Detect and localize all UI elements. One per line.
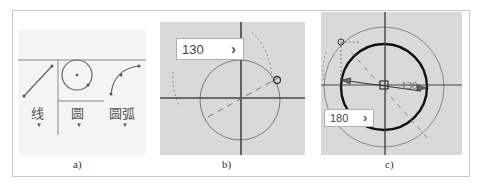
dimension-label: 130 <box>401 79 418 91</box>
chevron-down-icon[interactable]: ▼ <box>36 122 42 128</box>
caption-c: c) <box>385 158 394 170</box>
panel-c-canvas[interactable]: 130 180 › <box>321 12 462 155</box>
radius-input-value: 130 <box>182 42 204 57</box>
panel-a-ribbon: 线 ▼ 圆 ▼ 圆弧 ▼ <box>18 30 146 155</box>
drawing-canvas-c <box>321 12 462 155</box>
radius-input[interactable]: 130 › <box>176 38 244 60</box>
tool-line-label: 线 <box>31 103 44 122</box>
chevron-down-icon[interactable]: ▼ <box>122 122 128 128</box>
enter-arrow-icon[interactable]: › <box>231 40 236 57</box>
tool-circle-label: 圆 <box>71 103 84 122</box>
tool-arc-label: 圆弧 <box>109 103 135 122</box>
tool-line-button[interactable]: 线 ▼ <box>18 61 58 135</box>
tool-circle-button[interactable]: 圆 ▼ <box>59 61 104 135</box>
offset-input-value: 180 <box>330 112 348 124</box>
caption-a: a) <box>73 158 82 170</box>
offset-input[interactable]: 180 › <box>324 109 374 127</box>
tool-arc-button[interactable]: 圆弧 ▼ <box>104 61 146 135</box>
chevron-down-icon[interactable]: ▼ <box>76 122 82 128</box>
panel-b-canvas[interactable]: 130 › <box>160 22 305 155</box>
enter-arrow-icon[interactable]: › <box>363 110 367 125</box>
caption-b: b) <box>222 158 231 170</box>
